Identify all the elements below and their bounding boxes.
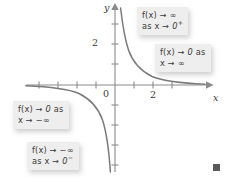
annotation-limit-left-of-zero: f(x) → −∞ as x → 0− bbox=[27, 142, 79, 170]
y-axis-label: y bbox=[104, 2, 109, 13]
annotation-line-1: f(x) → 0 as bbox=[18, 104, 64, 115]
x-axis-label: x bbox=[213, 92, 218, 103]
y-axis-tick-label-2: 2 bbox=[92, 37, 98, 48]
annotation-line-2: x → −∞ bbox=[18, 115, 64, 126]
annotation-line-1: f(x) → 0 as bbox=[160, 47, 206, 58]
x-axis-arrowhead bbox=[206, 81, 214, 89]
annotation-limit-x-to-positive-infinity: f(x) → 0 as x → ∞ bbox=[155, 44, 211, 72]
figure-container: y x 0 2 2 f(x) → ∞ as x → 0+ f(x) → 0 as… bbox=[0, 0, 227, 182]
annotation-line-2: as x → 0+ bbox=[142, 21, 183, 32]
annotation-line-1-suffix: as bbox=[51, 104, 64, 114]
y-axis-arrowhead bbox=[111, 3, 119, 10]
annotation-line-2-prefix: as x → bbox=[142, 21, 172, 31]
annotation-limit-right-of-zero: f(x) → ∞ as x → 0+ bbox=[137, 7, 188, 35]
annotation-line-1-suffix: as bbox=[193, 47, 206, 57]
annotation-line-2-prefix: as x → bbox=[32, 156, 62, 166]
annotation-line-2-superscript: − bbox=[68, 154, 74, 162]
annotation-line-1-prefix: f(x) → bbox=[18, 104, 46, 114]
annotation-line-2: x → ∞ bbox=[160, 58, 206, 69]
end-of-section-marker bbox=[213, 164, 220, 171]
annotation-line-2-superscript: + bbox=[178, 19, 184, 27]
annotation-line-1-prefix: f(x) → bbox=[160, 47, 188, 57]
x-axis-tick-label-2: 2 bbox=[150, 89, 156, 100]
annotation-limit-x-to-negative-infinity: f(x) → 0 as x → −∞ bbox=[13, 101, 69, 129]
annotation-line-2: as x → 0− bbox=[32, 156, 74, 167]
origin-label: 0 bbox=[103, 88, 109, 99]
